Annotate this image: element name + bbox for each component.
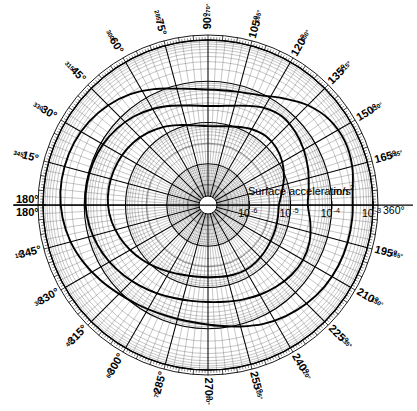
axis-units-exponent: 2 xyxy=(350,183,354,192)
radial-tick-base: 10 xyxy=(362,207,374,219)
axis-end-label: 360° xyxy=(383,204,405,216)
radial-tick-exponent: -6 xyxy=(251,207,257,214)
left-label-180-lower: 180° xyxy=(16,206,39,218)
left-label-180-upper: 180° xyxy=(16,193,39,205)
radial-tick-base: 10 xyxy=(321,207,333,219)
radial-tick-exponent: -3 xyxy=(375,207,381,214)
angle-label-outer: 270° xyxy=(204,3,211,16)
axis-units-text: m/s xyxy=(333,185,351,197)
axis-title-group: Surface acceleration m/s 2 xyxy=(248,183,354,197)
radial-tick-base: 10 xyxy=(238,207,250,219)
polar-diagram-figure: 10-610-510-410-3 165°345°150°330°135°315… xyxy=(0,0,417,411)
left-180-labels: 180° 180° xyxy=(16,193,39,218)
polar-chart-svg: 10-610-510-410-3 165°345°150°330°135°315… xyxy=(0,0,417,411)
angle-label-outer: 90° xyxy=(205,395,212,405)
radial-tick-base: 10 xyxy=(280,207,292,219)
radial-tick-exponent: -5 xyxy=(293,207,299,214)
axis-end-label-group: 360° xyxy=(383,204,405,216)
radial-tick-exponent: -4 xyxy=(334,207,340,214)
